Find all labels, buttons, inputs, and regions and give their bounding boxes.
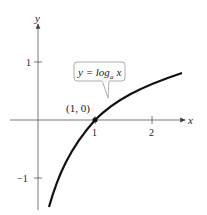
- x-tick-1: 1: [92, 127, 97, 138]
- y-tick-neg1: −1: [17, 173, 28, 184]
- y-tick-1: 1: [26, 57, 31, 68]
- x-axis-label: x: [187, 114, 193, 126]
- y-axis-label: y: [34, 12, 40, 24]
- x-tick-2: 2: [149, 127, 154, 138]
- log-curve: [49, 73, 182, 207]
- point-1-0: [93, 118, 98, 123]
- point-label: (1, 0): [66, 102, 90, 115]
- log-graph: x y 1 2 1 −1 (1, 0) y = logax: [0, 0, 207, 215]
